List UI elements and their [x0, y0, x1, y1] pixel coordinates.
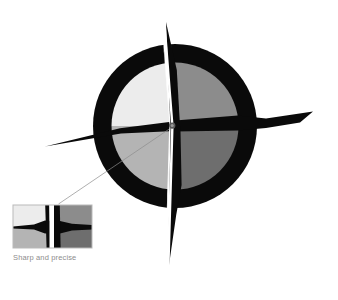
pivot-hub-center [171, 124, 174, 127]
inset-pane-left [13, 205, 51, 248]
inset-pane-right [54, 205, 92, 248]
figure-canvas: Sharp and precise [0, 0, 338, 300]
inset-pane-gap [50, 205, 55, 248]
inset-needle-blade-right [54, 205, 61, 248]
inset-caption: Sharp and precise [13, 252, 173, 263]
magnified-inset[interactable] [13, 205, 92, 248]
